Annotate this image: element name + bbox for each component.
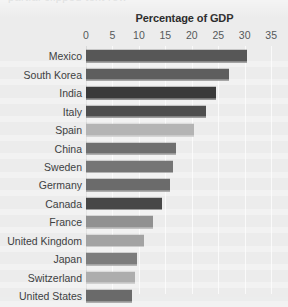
bar-row: South Korea: [0, 65, 288, 84]
x-tick-10: 10: [133, 29, 145, 41]
bar-label-italy: Italy: [63, 106, 82, 118]
bar-row: China: [0, 139, 288, 158]
x-tick-20: 20: [186, 29, 198, 41]
bar-label-switzerland: Switzerland: [28, 272, 82, 284]
bar-label-france: France: [49, 216, 82, 228]
bar-united-kingdom: [86, 235, 144, 248]
plot-area: MexicoSouth KoreaIndiaItalySpainChinaSwe…: [0, 46, 288, 294]
bar-row: Spain: [0, 121, 288, 140]
bar-row: Switzerland: [0, 268, 288, 287]
bar-label-united-kingdom: United Kingdom: [7, 235, 82, 247]
bar-row: Mexico: [0, 47, 288, 66]
bar-china: [86, 142, 176, 155]
bar-row: Italy: [0, 102, 288, 121]
bar-sweden: [86, 161, 173, 174]
x-tick-25: 25: [212, 29, 224, 41]
x-tick-0: 0: [83, 29, 89, 41]
bar-row: Japan: [0, 250, 288, 269]
clipped-text-artifact: partial clipped text row: [0, 0, 288, 9]
bar-label-japan: Japan: [53, 253, 82, 265]
bar-south-korea: [86, 68, 229, 81]
bars-layer: MexicoSouth KoreaIndiaItalySpainChinaSwe…: [0, 46, 288, 294]
bar-label-china: China: [55, 143, 82, 155]
bar-row: Germany: [0, 176, 288, 195]
x-tick-30: 30: [239, 29, 251, 41]
chart-title: Percentage of GDP: [87, 12, 282, 24]
bar-row: Sweden: [0, 158, 288, 177]
bar-row: France: [0, 213, 288, 232]
bar-canada: [86, 198, 162, 211]
bar-label-south-korea: South Korea: [24, 69, 82, 81]
bar-label-mexico: Mexico: [49, 50, 82, 62]
clipped-text-ghost: partial clipped text row: [8, 0, 127, 3]
bar-label-india: India: [59, 87, 82, 99]
bar-united-states: [86, 290, 132, 303]
x-tick-15: 15: [160, 29, 172, 41]
bar-label-sweden: Sweden: [44, 161, 82, 173]
bar-label-canada: Canada: [45, 198, 82, 210]
bar-switzerland: [86, 271, 135, 284]
bar-india: [86, 87, 216, 100]
bar-france: [86, 216, 153, 229]
bar-mexico: [86, 50, 247, 63]
bar-label-united-states: United States: [19, 290, 82, 302]
x-tick-5: 5: [110, 29, 116, 41]
bar-row: United States: [0, 287, 288, 306]
bar-row: Canada: [0, 195, 288, 214]
bar-spain: [86, 124, 194, 137]
bar-germany: [86, 179, 170, 192]
bar-italy: [86, 105, 206, 118]
bar-label-germany: Germany: [39, 179, 82, 191]
x-tick-35: 35: [265, 29, 277, 41]
bar-japan: [86, 253, 137, 266]
bar-label-spain: Spain: [55, 124, 82, 136]
bar-row: United Kingdom: [0, 232, 288, 251]
bar-row: India: [0, 84, 288, 103]
x-axis-tick-labels: 05101520253035: [0, 29, 288, 43]
